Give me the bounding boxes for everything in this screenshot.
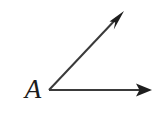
vertex-label-a: A bbox=[19, 74, 47, 104]
angle-figure: A bbox=[0, 0, 163, 120]
